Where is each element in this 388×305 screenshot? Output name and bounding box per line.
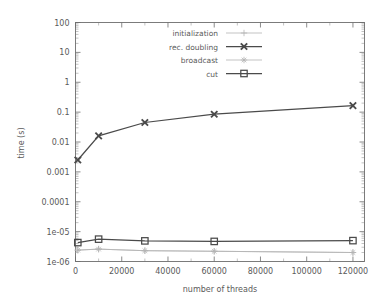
legend-label-broadcast: broadcast <box>181 56 218 65</box>
y-tick-label: 100 <box>54 19 69 28</box>
y-tick-label: 1e-06 <box>46 258 69 267</box>
legend-label-cut: cut <box>206 70 218 79</box>
x-axis-title: number of threads <box>183 285 257 294</box>
legend-label-rec-doubling: rec. doubling <box>169 43 218 52</box>
y-tick-label: 1 <box>64 78 69 87</box>
plot-area: 1e-061e-050.00010.0010.010.1110100 02000… <box>0 0 388 305</box>
chart-figure: 1e-061e-050.00010.0010.010.1110100 02000… <box>0 0 388 305</box>
x-tick-label: 20000 <box>109 267 134 276</box>
x-tick-label: 40000 <box>155 267 180 276</box>
x-tick-label: 80000 <box>248 267 273 276</box>
x-tick-label: 100000 <box>291 267 322 276</box>
x-tick-label: 60000 <box>201 267 226 276</box>
x-tick-label: 120000 <box>338 267 369 276</box>
legend-label-initialization: initialization <box>172 29 218 38</box>
y-tick-label: 0.1 <box>57 108 70 117</box>
y-tick-label: 0.01 <box>52 138 70 147</box>
x-tick-label: 0 <box>73 267 78 276</box>
y-tick-label: 10 <box>59 48 69 57</box>
y-tick-label: 0.0001 <box>42 198 70 207</box>
y-tick-label: 0.001 <box>47 168 70 177</box>
y-axis-title: time (s) <box>17 127 26 158</box>
y-tick-label: 1e-05 <box>46 228 69 237</box>
